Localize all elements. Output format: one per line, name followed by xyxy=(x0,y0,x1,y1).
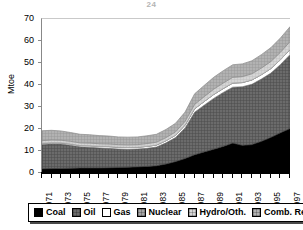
y-axis-tick-label: 30 xyxy=(24,102,34,111)
legend-swatch-icon xyxy=(188,208,197,217)
y-axis-tick-label: 60 xyxy=(24,36,34,45)
x-axis-tick xyxy=(117,174,118,178)
legend-swatch-icon xyxy=(137,208,146,217)
y-axis-labels: 010203040506070 xyxy=(0,9,38,181)
x-axis-tick xyxy=(279,174,280,178)
legend-item-oil[interactable]: Oil xyxy=(72,208,96,217)
plot-area xyxy=(41,18,290,173)
x-axis-tick xyxy=(289,174,290,178)
x-axis-tick xyxy=(194,174,195,178)
x-axis-tick xyxy=(270,174,271,178)
y-axis-tick-label: 40 xyxy=(24,80,34,89)
x-axis-tick xyxy=(70,174,71,178)
legend-item-gas[interactable]: Gas xyxy=(102,208,131,217)
x-axis-tick xyxy=(260,174,261,178)
x-axis-tick xyxy=(60,174,61,178)
x-axis-tick xyxy=(41,174,42,178)
legend-item-nuclear[interactable]: Nuclear xyxy=(137,208,182,217)
x-axis-tick xyxy=(146,174,147,178)
x-axis-tick xyxy=(155,174,156,178)
legend-label: Coal xyxy=(46,208,66,217)
x-axis-tick xyxy=(222,174,223,178)
legend-label: Nuclear xyxy=(149,208,182,217)
x-axis-tick xyxy=(89,174,90,178)
legend-swatch-icon xyxy=(72,208,81,217)
x-axis-tick xyxy=(251,174,252,178)
legend-item-coal[interactable]: Coal xyxy=(34,208,66,217)
x-axis-tick xyxy=(127,174,128,178)
x-axis-tick xyxy=(203,174,204,178)
y-axis-tick-label: 0 xyxy=(29,168,34,177)
legend-item-hydro-oth[interactable]: Hydro/Oth. xyxy=(188,208,247,217)
legend-label: Gas xyxy=(114,208,131,217)
legend-swatch-icon xyxy=(34,208,43,217)
chart-legend: CoalOilGasNuclearHydro/Oth.Comb. Renew. xyxy=(28,203,303,222)
legend-label: Oil xyxy=(84,208,96,217)
x-axis-tick xyxy=(232,174,233,178)
x-axis-tick xyxy=(184,174,185,178)
x-axis-tick xyxy=(98,174,99,178)
legend-label: Comb. Renew. xyxy=(264,208,303,217)
plot-wrapper: Mtoe 010203040506070 xyxy=(0,9,303,181)
y-axis-tick-label: 70 xyxy=(24,14,34,23)
x-axis-tick xyxy=(51,174,52,178)
x-axis-tick xyxy=(108,174,109,178)
y-axis-tick-label: 50 xyxy=(24,58,34,67)
legend-swatch-icon xyxy=(102,208,111,217)
x-axis-tick xyxy=(213,174,214,178)
x-axis-tick xyxy=(165,174,166,178)
legend-swatch-icon xyxy=(252,208,261,217)
x-axis-tick xyxy=(241,174,242,178)
y-axis-tick-label: 20 xyxy=(24,124,34,133)
x-axis-tick xyxy=(136,174,137,178)
legend-label: Hydro/Oth. xyxy=(200,208,247,217)
title-remnant: 24 xyxy=(0,0,303,9)
x-axis-tick xyxy=(79,174,80,178)
y-axis-tick-label: 10 xyxy=(24,146,34,155)
legend-item-comb-renew[interactable]: Comb. Renew. xyxy=(252,208,303,217)
stacked-area-svg xyxy=(42,19,290,173)
x-axis-tick xyxy=(175,174,176,178)
chart-figure: 24 Mtoe 010203040506070 xyxy=(0,0,303,230)
